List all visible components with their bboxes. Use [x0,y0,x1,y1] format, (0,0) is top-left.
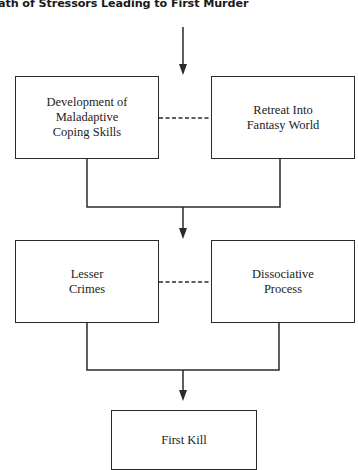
node-label: Coping Skills [47,125,128,140]
node-label: Process [252,282,314,297]
node-fantasy-world: Retreat Into Fantasy World [211,76,355,159]
node-dissociative-process: Dissociative Process [211,240,355,323]
node-lesser-crimes: Lesser Crimes [15,240,159,323]
node-label: Retreat Into [247,103,320,118]
node-label: Crimes [69,282,105,297]
node-label: Fantasy World [247,118,320,133]
node-label: Development of [47,95,128,110]
node-first-kill: First Kill [111,410,257,470]
arrowhead-icon [179,390,187,401]
node-label: Lesser [69,267,105,282]
node-maladaptive-coping: Development of Maladaptive Coping Skills [15,76,159,159]
arrowhead-icon [179,64,187,75]
node-label: Dissociative [252,267,314,282]
node-label: Maladaptive [47,110,128,125]
node-label: First Kill [161,433,207,448]
arrowhead-icon [179,228,187,239]
